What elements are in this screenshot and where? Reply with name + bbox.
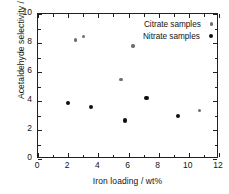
x-tick-major-top [68,14,69,18]
data-point-citrate [119,78,122,81]
legend-marker-citrate-icon [210,22,213,25]
x-tick-major [98,153,99,157]
y-tick-minor [38,87,41,88]
y-tick-major [38,101,42,102]
legend-item-citrate: Citrate samples [143,18,213,30]
y-tick-label: 0 [8,152,32,162]
data-point-citrate [74,38,77,41]
y-tick-major-right [213,43,217,44]
y-tick-label: 4 [8,94,32,104]
data-point-nitrate [176,114,180,118]
x-tick-label: 2 [55,160,79,170]
y-tick-major-right [213,72,217,73]
x-tick-label: 10 [176,160,200,170]
x-tick-major [129,153,130,157]
data-point-citrate [82,35,85,38]
x-tick-minor [83,155,84,158]
y-tick-minor [38,116,41,117]
x-tick-minor-top [174,14,175,17]
y-tick-major-right [213,130,217,131]
x-tick-major [68,153,69,157]
x-tick-label: 4 [85,160,109,170]
y-tick-label: 2 [8,123,32,133]
x-tick-minor [144,155,145,158]
data-point-nitrate [66,101,70,105]
x-tick-major-top [219,14,220,18]
x-tick-major [38,153,39,157]
x-tick-label: 8 [146,160,170,170]
x-tick-minor-top [83,14,84,17]
x-tick-minor [113,155,114,158]
x-tick-major-top [129,14,130,18]
y-tick-minor-right [215,145,218,146]
y-tick-label: 8 [8,36,32,46]
y-tick-major-right [213,14,217,15]
data-point-nitrate [89,105,93,109]
x-tick-minor-top [204,14,205,17]
x-tick-major [219,153,220,157]
x-tick-major-top [98,14,99,18]
x-axis-title: Iron loading / wt% [37,176,218,186]
y-tick-major [38,14,42,15]
chart-legend: Citrate samples Nitrate samples [143,18,213,42]
x-tick-major [189,153,190,157]
y-tick-minor [38,145,41,146]
x-tick-minor-top [144,14,145,17]
data-point-nitrate [123,118,127,122]
legend-label-citrate: Citrate samples [144,20,201,29]
data-point-citrate [131,44,134,47]
y-tick-label: 6 [8,65,32,75]
x-tick-minor [174,155,175,158]
x-tick-label: 6 [116,160,140,170]
y-tick-minor-right [215,116,218,117]
y-tick-label: 10 [8,7,32,17]
scatter-chart-figure: Acetaldehyde selectivity / % Iron loadin… [0,0,229,194]
x-tick-minor [53,155,54,158]
y-tick-minor-right [215,58,218,59]
y-tick-minor-right [215,87,218,88]
y-tick-major [38,130,42,131]
y-tick-minor-right [215,29,218,30]
x-tick-minor-top [113,14,114,17]
y-tick-minor [38,58,41,59]
y-tick-major [38,72,42,73]
plot-area: Citrate samples Nitrate samples [37,13,218,158]
x-tick-label: 12 [206,160,229,170]
legend-item-nitrate: Nitrate samples [143,30,213,42]
y-tick-major-right [213,101,217,102]
x-tick-minor-top [53,14,54,17]
data-point-citrate [198,109,201,112]
x-tick-minor [204,155,205,158]
legend-marker-nitrate-icon [209,34,213,38]
y-tick-major [38,43,42,44]
y-tick-minor [38,29,41,30]
legend-label-nitrate: Nitrate samples [143,32,200,41]
x-tick-major [159,153,160,157]
data-point-nitrate [144,96,148,100]
